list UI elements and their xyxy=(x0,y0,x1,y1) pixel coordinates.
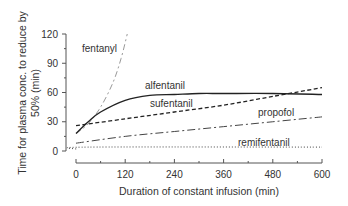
y-axis-label: Time for plasma conc. to reduce by xyxy=(16,10,28,174)
x-tick-label: 360 xyxy=(215,169,232,180)
y-tick-label: 60 xyxy=(47,87,59,98)
y-axis: 0306090120 xyxy=(41,29,66,157)
label-fentanyl: fentanyl xyxy=(82,43,117,54)
chart: 0306090120 0120240360480600 Time for pla… xyxy=(0,0,348,206)
x-axis-label: Duration of constant infusion (min) xyxy=(119,185,279,197)
label-propofol: propofol xyxy=(258,107,294,118)
label-remifentanil: remifentanil xyxy=(238,137,290,148)
x-tick-label: 240 xyxy=(166,169,183,180)
x-axis: 0120240360480600 xyxy=(73,159,331,180)
y-tick-label: 90 xyxy=(47,58,59,69)
label-sufentanil: sufentanil xyxy=(150,98,193,109)
label-alfentanil: alfentanil xyxy=(145,80,185,91)
y-tick-label: 30 xyxy=(47,116,59,127)
x-tick-label: 0 xyxy=(73,169,79,180)
x-tick-label: 600 xyxy=(314,169,331,180)
x-tick-label: 120 xyxy=(117,169,134,180)
y-axis-label-2: 50% (min) xyxy=(29,69,41,117)
y-tick-label: 0 xyxy=(52,146,58,157)
x-tick-label: 480 xyxy=(264,169,281,180)
y-tick-label: 120 xyxy=(41,29,58,40)
